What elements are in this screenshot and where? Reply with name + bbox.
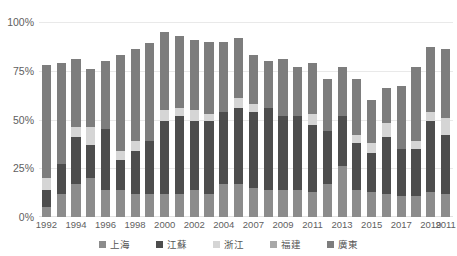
bar-column — [175, 36, 184, 217]
bar-segment — [160, 32, 169, 110]
bar-segment — [42, 178, 51, 190]
legend-label: 浙江 — [224, 237, 244, 251]
bar-segment — [367, 192, 376, 217]
bar-column — [352, 79, 361, 217]
bar-segment — [145, 43, 154, 141]
bar-segment — [441, 49, 450, 117]
bar-column — [397, 86, 406, 217]
bar-column — [42, 65, 51, 217]
x-tick-label: 1996 — [95, 219, 116, 230]
bar-segment — [352, 190, 361, 217]
bar-segment — [293, 116, 302, 190]
bar-segment — [308, 125, 317, 191]
plot-area — [39, 22, 453, 217]
bar-segment — [367, 153, 376, 192]
bar-segment — [338, 116, 347, 167]
bar-segment — [397, 149, 406, 196]
bar-column — [278, 59, 287, 217]
bar-segment — [278, 59, 287, 116]
bar-column — [219, 42, 228, 218]
bar-segment — [116, 190, 125, 217]
bar-segment — [426, 192, 435, 217]
bar-segment — [42, 190, 51, 208]
bar-segment — [367, 143, 376, 153]
bar-segment — [101, 190, 110, 217]
bar-segment — [323, 131, 332, 184]
bar-segment — [71, 137, 80, 184]
bar-segment — [234, 98, 243, 108]
bar-column — [116, 55, 125, 217]
bar-segment — [204, 194, 213, 217]
bar-segment — [190, 121, 199, 189]
bar-segment — [441, 135, 450, 194]
bar-segment — [116, 55, 125, 151]
bar-segment — [160, 110, 169, 122]
legend-item-3[interactable]: 福建 — [270, 237, 301, 251]
bar-column — [145, 43, 154, 217]
x-tick-label: 2007 — [243, 219, 264, 230]
y-tick-label: 0% — [0, 211, 34, 223]
bar-column — [441, 49, 450, 217]
bar-segment — [411, 67, 420, 141]
bar-segment — [219, 112, 228, 184]
bar-column — [131, 49, 140, 217]
bar-segment — [86, 178, 95, 217]
bar-segment — [411, 149, 420, 196]
bar-segment — [175, 36, 184, 108]
y-tick-label: 50% — [0, 114, 34, 126]
bar-segment — [234, 38, 243, 98]
bar-series-container — [39, 22, 453, 217]
bar-segment — [249, 55, 258, 104]
legend-item-2[interactable]: 浙江 — [213, 237, 244, 251]
bar-segment — [116, 151, 125, 161]
bar-segment — [145, 194, 154, 217]
legend-item-0[interactable]: 上海 — [99, 237, 130, 251]
bar-column — [71, 59, 80, 217]
legend-item-4[interactable]: 廣東 — [327, 237, 358, 251]
bar-segment — [323, 79, 332, 132]
x-tick-label: 2004 — [213, 219, 234, 230]
bar-segment — [308, 114, 317, 126]
bar-segment — [441, 118, 450, 136]
bar-column — [323, 79, 332, 217]
bar-segment — [382, 123, 391, 137]
bar-segment — [160, 194, 169, 217]
bar-segment — [264, 190, 273, 217]
bar-segment — [411, 196, 420, 217]
bar-segment — [264, 61, 273, 108]
x-tick-label: 2002 — [184, 219, 205, 230]
bar-segment — [101, 129, 110, 189]
x-tick-label: 1994 — [65, 219, 86, 230]
bar-segment — [190, 110, 199, 122]
bar-segment — [308, 192, 317, 217]
bar-segment — [308, 63, 317, 114]
bar-segment — [249, 104, 258, 112]
bar-segment — [101, 61, 110, 129]
bar-column — [160, 32, 169, 217]
bar-segment — [131, 194, 140, 217]
legend-swatch-icon — [99, 241, 106, 248]
legend-item-1[interactable]: 江蘇 — [156, 237, 187, 251]
bar-segment — [131, 151, 140, 194]
bar-segment — [86, 127, 95, 145]
bar-segment — [160, 121, 169, 193]
bar-segment — [338, 166, 347, 217]
bar-segment — [323, 184, 332, 217]
bar-segment — [204, 114, 213, 122]
bar-segment — [71, 59, 80, 127]
stacked-bar-chart: 100% 75% 50% 25% 0% 19921994199619982000… — [0, 0, 457, 256]
bar-segment — [382, 137, 391, 194]
y-tick-label: 75% — [0, 65, 34, 77]
bar-segment — [352, 79, 361, 136]
bar-segment — [175, 116, 184, 194]
bar-column — [308, 63, 317, 217]
bar-column — [293, 67, 302, 217]
bar-segment — [426, 112, 435, 122]
bar-column — [86, 69, 95, 217]
bar-column — [338, 67, 347, 217]
x-tick-label: 2009 — [272, 219, 293, 230]
bar-segment — [190, 190, 199, 217]
chart-legend: 上海江蘇浙江福建廣東 — [0, 236, 457, 252]
x-tick-label: 2017 — [391, 219, 412, 230]
x-tick-label: 2000 — [154, 219, 175, 230]
